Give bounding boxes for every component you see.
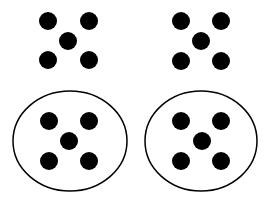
- dot: [172, 52, 190, 70]
- dot: [172, 152, 190, 170]
- dot: [60, 132, 78, 150]
- dot-group-top-right: [172, 12, 230, 70]
- dot: [212, 12, 230, 30]
- dot: [212, 52, 230, 70]
- dot: [80, 51, 98, 69]
- dot: [59, 32, 77, 50]
- dot: [172, 12, 190, 30]
- dot: [193, 132, 211, 150]
- dot: [192, 32, 210, 50]
- dot: [80, 12, 98, 30]
- dot: [172, 112, 190, 130]
- dot: [80, 112, 98, 130]
- dot-groups-diagram: [0, 0, 269, 203]
- dot: [40, 152, 58, 170]
- dot: [40, 112, 58, 130]
- dot-group-bottom-right: [145, 91, 257, 191]
- dot: [80, 152, 98, 170]
- dot: [212, 112, 230, 130]
- dot-group-top-left: [39, 12, 98, 69]
- dot: [39, 51, 57, 69]
- dot-group-bottom-left: [13, 91, 127, 191]
- dot: [212, 152, 230, 170]
- dot: [39, 12, 57, 30]
